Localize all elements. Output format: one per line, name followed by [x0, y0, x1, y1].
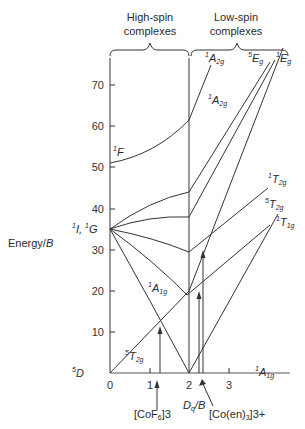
label-1Eg: 1Eg: [276, 51, 291, 66]
svg-text:[Co(en)3]3+: [Co(en)3]3+: [209, 408, 265, 421]
y-ticks: 10 20 30 40 50 60 70: [92, 79, 115, 338]
svg-text:3: 3: [226, 379, 232, 391]
coen3-annotation: [Co(en)3]3+: [199, 379, 265, 421]
label-5Eg: 5Eg: [248, 51, 263, 66]
tanabe-sugano-chart: High-spin complexes Low-spin complexes 1…: [0, 0, 305, 429]
term-1F: 1F: [113, 145, 125, 158]
high-spin-label-2: complexes: [124, 25, 177, 37]
label-1A2g-top: 1A2g: [205, 51, 224, 66]
svg-text:60: 60: [92, 120, 104, 132]
low-spin-label-1: Low-spin: [214, 11, 258, 23]
term-5D: 5D: [72, 366, 84, 379]
svg-text:50: 50: [92, 161, 104, 173]
label-1A2g: 1A2g: [208, 93, 227, 108]
svg-text:10: 10: [92, 326, 104, 338]
high-spin-label-1: High-spin: [127, 11, 173, 23]
label-5T2g-right: 5T2g: [265, 197, 284, 212]
svg-text:0: 0: [107, 379, 113, 391]
term-1I-1G: 1I, 1G: [72, 222, 98, 235]
svg-text:1: 1: [147, 379, 153, 391]
low-spin-label-2: complexes: [210, 25, 263, 37]
svg-text:2: 2: [186, 379, 192, 391]
label-1A1g-mid: 1A1g: [148, 281, 167, 296]
energy-curves: [110, 48, 283, 373]
x-ticks: 0 1 2 3: [107, 368, 232, 391]
label-1T1g: 1T1g: [276, 215, 295, 230]
svg-text:20: 20: [92, 285, 104, 297]
svg-text:40: 40: [92, 203, 104, 215]
transition-arrows: [158, 250, 206, 373]
svg-text:[CoF6]3: [CoF6]3: [134, 408, 171, 421]
label-1T2g: 1T2g: [268, 172, 287, 187]
label-5T2g-left: 5T2g: [125, 349, 144, 364]
y-axis-label: Energy/B: [8, 237, 53, 249]
svg-text:30: 30: [92, 244, 104, 256]
svg-text:70: 70: [92, 79, 104, 91]
x-axis-label: Dq/B: [183, 399, 205, 413]
high-spin-brace: [110, 43, 189, 56]
